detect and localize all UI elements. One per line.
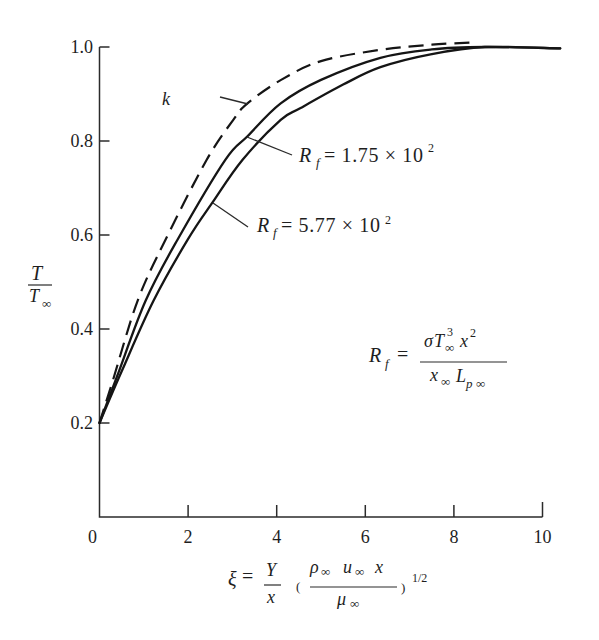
annotation-rf-175-exponent: 2 [428,141,434,155]
rf-definition-formula: R f = σ T 3 ∞ x 2 x ∞ L p ∞ [368,325,507,391]
annotation-k-leader [220,97,248,104]
x-tick-label: 8 [449,527,458,547]
formula-num-x: x [459,331,468,351]
figure: 0.20.40.60.81.00246810 T T ∞ k R f = 1.7… [0,0,599,640]
annotation-k-label: k [162,89,171,109]
formula-den-L-sub-inf: ∞ [476,376,485,391]
x-label-frac1-num: Y [266,560,278,580]
x-label-mu: μ [336,589,346,609]
x-label-rho: ρ [309,557,319,577]
formula-R-sub: f [385,356,391,371]
x-label-equals: = [242,565,253,587]
x-tick-label: 4 [272,527,281,547]
chart: 0.20.40.60.81.00246810 T T ∞ k R f = 1.7… [0,0,599,640]
x-label-close-paren: ) [401,580,405,595]
annotation-rf-577-value: = 5.77 × 10 [281,214,380,236]
annotation-rf-577-leader [213,203,248,227]
y-axis-label: T T ∞ [28,262,52,311]
x-label-xi: ξ [228,568,237,590]
formula-den-x: x [429,365,438,385]
x-label-frac1-den: x [266,587,275,607]
formula-equals: = [397,343,408,365]
annotation-rf-577-exponent: 2 [385,213,391,227]
formula-num-T-sub: ∞ [445,340,454,355]
x-label-u-sub: ∞ [355,564,364,579]
x-label-exponent: 1/2 [412,571,427,585]
x-axis-label: ξ = Y x ( ρ ∞ u ∞ x μ ∞ ) 1/2 [228,557,427,611]
annotation-rf-175: R f = 1.75 × 10 2 [247,137,434,170]
formula-den-x-sub: ∞ [441,374,450,389]
annotation-rf-175-sub: f [316,155,322,170]
x-label-rho-sub: ∞ [321,564,330,579]
annotation-k: k [162,89,248,109]
formula-den-L: L [455,366,466,386]
formula-R: R [368,344,381,366]
x-label-open-paren: ( [296,579,300,594]
axis-lines [100,47,543,517]
formula-num-x-sup: 2 [470,326,476,340]
x-label-u: u [343,557,352,577]
annotation-rf-577-R: R [256,214,269,236]
formula-num-sigma: σ [424,331,434,351]
y-tick-label: 0.8 [71,131,94,151]
x-tick-label: 0 [88,527,97,547]
annotation-rf-175-value: = 1.75 × 10 [324,144,423,166]
axes: 0.20.40.60.81.00246810 [71,37,552,547]
annotation-rf-175-R: R [298,144,311,166]
y-label-denominator-sub: ∞ [42,296,51,311]
x-tick-label: 6 [361,527,370,547]
formula-den-L-sub-p: p [465,376,473,391]
y-tick-label: 0.2 [71,413,94,433]
y-tick-label: 0.6 [71,225,94,245]
x-tick-label: 10 [534,527,552,547]
x-label-mu-sub: ∞ [350,596,359,611]
annotation-rf-577-sub: f [273,225,279,240]
y-tick-label: 0.4 [71,319,94,339]
formula-num-T-sup: 3 [447,325,453,339]
y-tick-label: 1.0 [71,37,94,57]
x-label-x: x [374,557,383,577]
y-label-numerator: T [31,262,44,284]
annotation-rf-577: R f = 5.77 × 10 2 [213,203,391,240]
x-tick-label: 2 [184,527,193,547]
y-label-denominator: T [29,286,41,306]
